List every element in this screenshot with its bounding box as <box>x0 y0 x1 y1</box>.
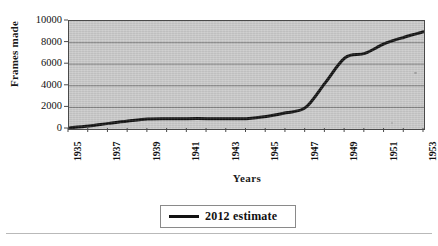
chart-legend: 2012 estimate <box>160 205 296 228</box>
x-tick-label: 1941 <box>190 142 201 161</box>
x-tick-label: 1949 <box>348 142 359 161</box>
x-tick-label: 1947 <box>309 142 320 161</box>
x-tick-label: 1935 <box>72 142 83 161</box>
x-tick-label: 1943 <box>230 142 241 161</box>
x-tick-label: 1945 <box>269 142 280 161</box>
legend-label: 2012 estimate <box>205 209 277 224</box>
x-tick-label: 1939 <box>151 142 162 161</box>
chart-figure: Frames made 1000080006000400020000 19351… <box>0 0 438 246</box>
legend-line-swatch <box>169 215 199 218</box>
x-tick-label: 1953 <box>427 142 438 161</box>
x-tick-label: 1951 <box>388 142 399 161</box>
x-axis-title: Years <box>68 172 426 184</box>
footer-divider <box>6 233 432 234</box>
x-tick-label: 1937 <box>111 142 122 161</box>
